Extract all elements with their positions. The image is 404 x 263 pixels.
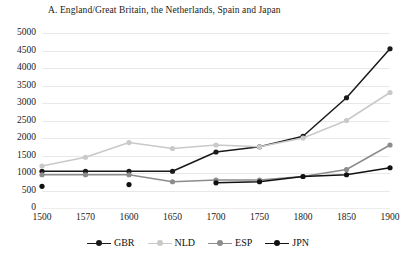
chart-legend: GBRNLDESPJPN	[0, 238, 396, 248]
data-point	[170, 169, 175, 174]
x-axis-tick-label: 1700	[196, 212, 236, 222]
data-point	[170, 146, 175, 151]
legend-label: GBR	[114, 238, 135, 248]
legend-swatch-icon	[148, 239, 172, 248]
y-axis-tick-label: 3000	[0, 98, 36, 108]
data-point	[39, 184, 44, 189]
data-point	[39, 163, 44, 168]
legend-swatch-icon	[265, 239, 289, 248]
series-nld	[39, 90, 392, 169]
series-jpn	[39, 165, 392, 189]
y-axis-tick-label: 2500	[0, 116, 36, 126]
data-point	[126, 172, 131, 177]
data-point	[39, 172, 44, 177]
y-axis-tick-label: 5000	[0, 28, 36, 38]
legend-swatch-icon	[208, 239, 232, 248]
series-line	[42, 93, 390, 167]
data-point	[344, 95, 349, 100]
data-point	[257, 179, 262, 184]
legend-dot	[274, 240, 280, 246]
y-axis-tick-label: 3500	[0, 81, 36, 91]
x-axis-tick-label: 1850	[327, 212, 367, 222]
x-axis-tick-label: 1900	[370, 212, 404, 222]
legend-label: NLD	[175, 238, 196, 248]
data-point	[300, 135, 305, 140]
legend-label: ESP	[235, 238, 252, 248]
y-axis-tick-label: 500	[0, 186, 36, 196]
legend-dot	[217, 240, 223, 246]
y-axis-tick-label: 1000	[0, 168, 36, 178]
data-point	[257, 144, 262, 149]
x-axis-tick-label: 1750	[240, 212, 280, 222]
y-axis-tick-label: 4500	[0, 46, 36, 56]
legend-dot	[96, 240, 102, 246]
legend-item-jpn[interactable]: JPN	[265, 238, 309, 248]
data-point	[83, 155, 88, 160]
y-axis-tick-label: 4000	[0, 63, 36, 73]
data-point	[344, 118, 349, 123]
data-point	[387, 165, 392, 170]
data-point	[387, 46, 392, 51]
gridline	[42, 208, 390, 209]
data-point	[213, 149, 218, 154]
data-point	[387, 142, 392, 147]
x-axis-tick-label: 1600	[109, 212, 149, 222]
x-axis-tick-label: 1570	[66, 212, 106, 222]
legend-swatch-icon	[87, 239, 111, 248]
data-point	[213, 142, 218, 147]
data-point	[126, 140, 131, 145]
data-point	[83, 172, 88, 177]
data-point	[300, 174, 305, 179]
y-axis-tick-label: 1500	[0, 151, 36, 161]
legend-item-esp[interactable]: ESP	[208, 238, 252, 248]
data-point	[170, 179, 175, 184]
x-axis-tick-label: 1800	[283, 212, 323, 222]
series-layer	[42, 33, 390, 208]
data-point	[344, 167, 349, 172]
data-point	[213, 180, 218, 185]
legend-dot	[157, 240, 163, 246]
x-axis-tick-label: 1650	[153, 212, 193, 222]
data-point	[344, 172, 349, 177]
series-esp	[39, 142, 392, 184]
x-axis-tick-label: 1500	[22, 212, 62, 222]
legend-label: JPN	[292, 238, 309, 248]
legend-item-gbr[interactable]: GBR	[87, 238, 135, 248]
y-axis-tick-label: 2000	[0, 133, 36, 143]
data-point	[387, 90, 392, 95]
plot-area	[42, 33, 390, 208]
legend-item-nld[interactable]: NLD	[148, 238, 196, 248]
chart-title: A. England/Great Britain, the Netherland…	[48, 5, 281, 15]
data-point	[126, 182, 131, 187]
